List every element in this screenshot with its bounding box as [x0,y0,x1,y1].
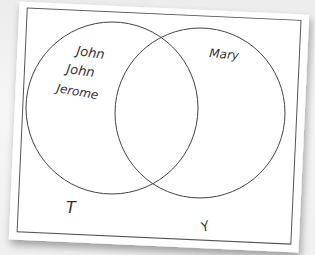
venn-diagram-sheet: John John Jerome Mary T Y [0,0,315,255]
paper-sheet [9,2,309,253]
member-mary: Mary [209,46,241,63]
set-t-label: T [66,198,77,217]
